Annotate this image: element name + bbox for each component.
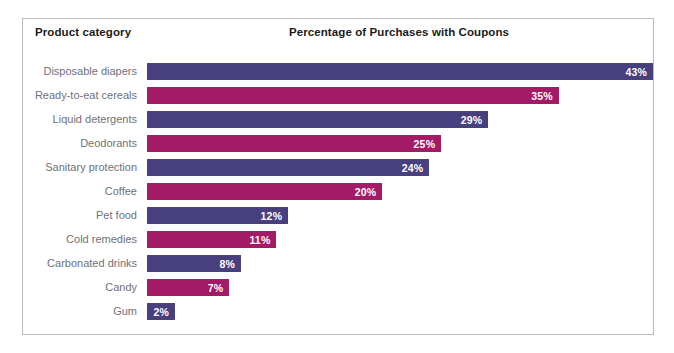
chart-row: Liquid detergents29% <box>23 111 653 128</box>
chart-bar: 7% <box>147 279 229 296</box>
chart-row: Pet food12% <box>23 207 653 224</box>
bar-value-label: 11% <box>249 234 276 246</box>
chart-row: Gum2% <box>23 303 653 320</box>
category-label: Disposable diapers <box>23 63 137 80</box>
bar-value-label: 20% <box>355 186 383 198</box>
chart-bar: 25% <box>147 135 441 152</box>
chart-row: Deodorants25% <box>23 135 653 152</box>
chart-row: Ready-to-eat cereals35% <box>23 87 653 104</box>
bar-value-label: 29% <box>461 114 489 126</box>
bar-value-label: 7% <box>208 282 230 294</box>
bar-value-label: 35% <box>531 90 559 102</box>
chart-header: Product category Percentage of Purchases… <box>23 19 653 49</box>
chart-row: Coffee20% <box>23 183 653 200</box>
chart-bar: 2% <box>147 303 175 320</box>
category-label: Deodorants <box>23 135 137 152</box>
chart-bar: 12% <box>147 207 288 224</box>
bar-value-label: 24% <box>402 162 430 174</box>
category-label: Gum <box>23 303 137 320</box>
chart-bar: 20% <box>147 183 382 200</box>
chart-bar: 24% <box>147 159 429 176</box>
bar-value-label: 8% <box>220 258 242 270</box>
chart-row: Disposable diapers43% <box>23 63 653 80</box>
bar-value-label: 12% <box>261 210 289 222</box>
column-header-product-category: Product category <box>35 26 131 38</box>
category-label: Liquid detergents <box>23 111 137 128</box>
chart-row: Candy7% <box>23 279 653 296</box>
chart-row: Sanitary protection24% <box>23 159 653 176</box>
chart-row: Cold remedies11% <box>23 231 653 248</box>
bar-value-label: 25% <box>414 138 442 150</box>
chart-bar: 8% <box>147 255 241 272</box>
chart-plot-area: Disposable diapers43%Ready-to-eat cereal… <box>23 49 653 334</box>
chart-frame: Product category Percentage of Purchases… <box>22 18 654 335</box>
chart-bar: 29% <box>147 111 488 128</box>
bar-value-label: 43% <box>625 66 653 78</box>
category-label: Cold remedies <box>23 231 137 248</box>
category-label: Pet food <box>23 207 137 224</box>
chart-bar: 43% <box>147 63 653 80</box>
category-label: Candy <box>23 279 137 296</box>
chart-bar: 11% <box>147 231 276 248</box>
category-label: Sanitary protection <box>23 159 137 176</box>
chart-row: Carbonated drinks8% <box>23 255 653 272</box>
chart-bar: 35% <box>147 87 559 104</box>
chart-title: Percentage of Purchases with Coupons <box>151 26 647 38</box>
category-label: Coffee <box>23 183 137 200</box>
bar-value-label: 2% <box>153 306 175 318</box>
category-label: Carbonated drinks <box>23 255 137 272</box>
category-label: Ready-to-eat cereals <box>23 87 137 104</box>
